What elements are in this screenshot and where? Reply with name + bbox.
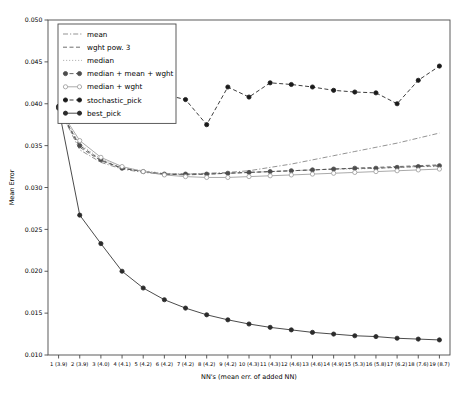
x-tick-label: 9 (4.2): [219, 361, 236, 367]
legend-marker: [63, 98, 67, 102]
x-tick-label: 10 (4.3): [239, 361, 260, 367]
data-point: [226, 175, 230, 179]
data-point: [247, 170, 251, 174]
data-point: [395, 102, 399, 106]
data-point: [374, 334, 378, 338]
data-point: [247, 95, 251, 99]
legend-label-5: stochastic_pick: [87, 96, 142, 105]
data-point: [416, 337, 420, 341]
data-point: [310, 85, 314, 89]
data-point: [78, 213, 82, 217]
legend-label-3: median + mean + wght: [87, 69, 174, 78]
data-point: [437, 64, 441, 68]
data-point: [332, 167, 336, 171]
y-tick-label: 0.020: [25, 267, 43, 274]
y-tick-label: 0.035: [25, 142, 43, 149]
data-point: [353, 334, 357, 338]
legend-marker: [77, 111, 81, 115]
data-point: [162, 298, 166, 302]
data-point: [395, 336, 399, 340]
x-tick-label: 15 (5.3): [345, 361, 366, 367]
y-axis-label: Mean Error: [8, 169, 16, 205]
x-tick-label: 2 (3.9): [71, 361, 88, 367]
data-point: [310, 172, 314, 176]
x-tick-label: 5 (4.2): [135, 361, 152, 367]
x-tick-label: 7 (4.2): [177, 361, 194, 367]
data-point: [353, 166, 357, 170]
y-tick-label: 0.045: [25, 58, 43, 65]
legend-marker: [77, 98, 81, 102]
legend-marker: [77, 72, 81, 76]
y-tick-label: 0.030: [25, 184, 43, 191]
data-point: [162, 173, 166, 177]
plot-canvas: 0.0100.0150.0200.0250.0300.0350.0400.045…: [0, 0, 476, 395]
legend-label-6: best_pick: [87, 109, 122, 118]
data-point: [353, 90, 357, 94]
x-axis-label: NN's (mean err. of added NN): [201, 373, 297, 381]
y-tick-label: 0.010: [25, 351, 43, 358]
data-point: [247, 322, 251, 326]
x-tick-label: 18 (7.6): [408, 361, 429, 367]
data-point: [205, 313, 209, 317]
y-tick-label: 0.050: [25, 16, 43, 23]
data-point: [268, 81, 272, 85]
data-point: [226, 171, 230, 175]
data-point: [374, 91, 378, 95]
x-tick-label: 16 (5.8): [366, 361, 387, 367]
data-point: [120, 164, 124, 168]
data-point: [247, 175, 251, 179]
data-point: [310, 330, 314, 334]
data-point: [332, 88, 336, 92]
legend-marker: [77, 85, 81, 89]
series-line-best-pick: [59, 108, 440, 340]
legend-marker: [63, 85, 67, 89]
data-point: [141, 169, 145, 173]
data-point: [183, 175, 187, 179]
data-point: [205, 175, 209, 179]
legend-marker: [63, 72, 67, 76]
data-point: [183, 306, 187, 310]
data-point: [289, 82, 293, 86]
data-point: [416, 168, 420, 172]
data-point: [78, 139, 82, 143]
y-tick-label: 0.025: [25, 226, 43, 233]
y-tick-label: 0.015: [25, 309, 43, 316]
x-tick-label: 4 (4.1): [113, 361, 130, 367]
data-point: [353, 170, 357, 174]
data-point: [332, 171, 336, 175]
data-point: [437, 338, 441, 342]
data-point: [332, 332, 336, 336]
legend-label-1: wght pow. 3: [87, 43, 130, 52]
legend-label-0: mean: [87, 30, 107, 39]
x-tick-label: 8 (4.2): [198, 361, 215, 367]
data-point: [226, 318, 230, 322]
legend-label-4: median + wght: [87, 82, 143, 91]
legend-marker: [63, 111, 67, 115]
y-tick-label: 0.040: [25, 100, 43, 107]
data-point: [416, 78, 420, 82]
data-point: [289, 169, 293, 173]
data-point: [205, 123, 209, 127]
x-tick-label: 1 (3.9): [50, 361, 67, 367]
data-point: [310, 168, 314, 172]
legend-label-2: median: [87, 56, 114, 65]
data-point: [141, 286, 145, 290]
data-point: [183, 97, 187, 101]
data-point: [268, 174, 272, 178]
data-point: [78, 144, 82, 148]
data-point: [226, 85, 230, 89]
data-point: [289, 173, 293, 177]
x-tick-label: 13 (4.6): [302, 361, 323, 367]
data-point: [99, 155, 103, 159]
data-point: [268, 325, 272, 329]
data-point: [268, 169, 272, 173]
x-tick-label: 3 (4.0): [92, 361, 109, 367]
x-tick-label: 11 (4.3): [260, 361, 281, 367]
x-tick-label: 6 (4.2): [156, 361, 173, 367]
x-tick-label: 17 (6.2): [387, 361, 408, 367]
x-tick-label: 14 (4.9): [323, 361, 344, 367]
x-tick-label: 19 (8.7): [429, 361, 450, 367]
data-point: [437, 167, 441, 171]
chart-figure: 0.0100.0150.0200.0250.0300.0350.0400.045…: [0, 0, 476, 395]
data-point: [374, 169, 378, 173]
